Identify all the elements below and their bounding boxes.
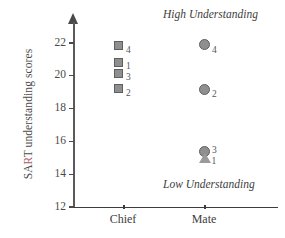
square-marker-icon <box>114 41 123 50</box>
x-tick-chief <box>123 205 125 209</box>
y-tick-label-20: 20 <box>40 68 66 80</box>
x-tick-label-chief: Chief <box>88 212 158 227</box>
y-axis-title-highlight: R <box>22 157 34 164</box>
y-tick-16 <box>69 141 74 142</box>
data-point-label: 3 <box>212 145 217 155</box>
x-tick-label-mate: Mate <box>169 212 239 227</box>
data-point-label: 2 <box>126 88 131 98</box>
data-point-label: 4 <box>126 45 131 55</box>
y-tick-18 <box>69 108 74 109</box>
y-tick-14 <box>69 174 74 175</box>
y-axis-title-pre: SA <box>22 164 34 179</box>
data-point-label: 2 <box>212 89 217 99</box>
y-tick-12 <box>69 206 74 207</box>
x-axis-line <box>73 207 278 208</box>
x-tick-mate <box>204 205 206 209</box>
y-axis-title-post: T understanding scores <box>22 49 34 158</box>
annotation-low-understanding: Low Understanding <box>163 178 255 190</box>
circle-marker-icon <box>199 39 210 50</box>
y-tick-22 <box>69 42 74 43</box>
y-axis-line <box>73 22 75 208</box>
y-tick-label-14: 14 <box>40 167 66 179</box>
circle-marker-icon <box>199 84 210 95</box>
data-point-label: 4 <box>212 45 217 55</box>
data-point-label: 1 <box>126 61 131 71</box>
y-tick-label-12: 12 <box>40 200 66 212</box>
square-marker-icon <box>114 84 123 93</box>
square-marker-icon <box>114 69 123 78</box>
triangle-marker-icon <box>199 153 211 163</box>
data-point-label: 3 <box>126 72 131 82</box>
y-tick-label-18: 18 <box>40 101 66 113</box>
y-tick-label-16: 16 <box>40 134 66 146</box>
y-tick-label-22: 22 <box>40 36 66 48</box>
scatter-chart: SART understanding scores 12 14 16 18 20… <box>0 0 285 238</box>
data-point-label: 1 <box>212 156 217 166</box>
y-axis-title: SART understanding scores <box>22 24 34 204</box>
annotation-high-understanding: High Understanding <box>163 8 258 20</box>
square-marker-icon <box>114 58 123 67</box>
y-tick-20 <box>69 75 74 76</box>
